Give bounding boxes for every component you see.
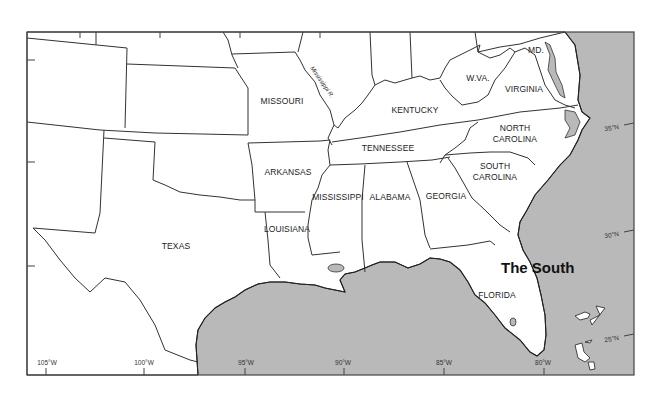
label-maryland: MD. xyxy=(528,45,544,55)
label-louisiana: LOUISIANA xyxy=(264,224,310,234)
longitude-105w: 105°W xyxy=(37,359,57,366)
label-arkansas: ARKANSAS xyxy=(264,167,311,177)
map-of-the-south: 105°W 100°W 95°W 90°W 85°W 80°W 35°N 30°… xyxy=(0,0,661,401)
label-south-carolina-1: SOUTH xyxy=(480,161,510,171)
longitude-80w: 80°W xyxy=(535,359,552,366)
label-south-carolina-2: CAROLINA xyxy=(473,172,517,182)
label-kentucky: KENTUCKY xyxy=(391,105,438,115)
label-tennessee: TENNESSEE xyxy=(362,143,415,153)
longitude-90w: 90°W xyxy=(335,359,352,366)
label-north-carolina-2: CAROLINA xyxy=(493,134,537,144)
label-north-carolina-1: NORTH xyxy=(500,123,531,133)
label-mississippi: MISSISSIPPI xyxy=(312,192,364,202)
longitude-85w: 85°W xyxy=(436,359,453,366)
map-title: The South xyxy=(501,259,574,276)
label-georgia: GEORGIA xyxy=(426,191,467,201)
label-florida: FLORIDA xyxy=(478,290,516,300)
label-west-virginia: W.VA. xyxy=(466,73,490,83)
label-alabama: ALABAMA xyxy=(370,192,411,202)
label-texas: TEXAS xyxy=(162,241,191,251)
longitude-100w: 100°W xyxy=(134,359,154,366)
label-virginia: VIRGINIA xyxy=(505,84,543,94)
lake-pontchartrain xyxy=(328,264,344,272)
label-missouri: MISSOURI xyxy=(261,96,304,106)
longitude-95w: 95°W xyxy=(238,359,255,366)
lake-okeechobee xyxy=(510,318,516,326)
